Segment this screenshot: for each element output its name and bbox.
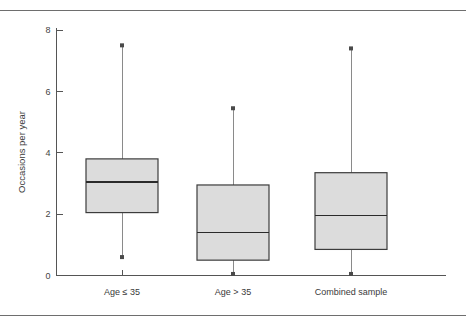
x-axis-category-label: Combined sample [315,287,388,297]
y-axis-ticks: 02468 [45,25,62,281]
y-axis-title: Occasions per year [16,111,27,193]
lower-whisker-cap [120,255,124,259]
box-iqr-rect [86,159,158,213]
y-tick-label: 6 [45,87,50,97]
box-plot-series [86,43,387,276]
upper-whisker-cap [120,43,124,47]
category-labels: Age ≤ 35Age > 35Combined sample [104,287,387,297]
y-axis: 02468 [45,25,62,281]
box-plot-chart: 02468 Occasions per year Age ≤ 35Age > 3… [0,0,466,323]
box-plot-item [197,106,269,276]
box-plot-item [315,46,387,276]
x-axis-category-label: Age > 35 [215,287,251,297]
x-axis [57,270,447,276]
y-tick-label: 2 [45,209,50,219]
box-iqr-rect [315,173,387,250]
upper-whisker-cap [349,46,353,50]
lower-whisker-cap [349,272,353,276]
x-axis-category-label: Age ≤ 35 [104,287,140,297]
box-plot-item [86,43,158,259]
lower-whisker-cap [231,272,235,276]
figure-container: 02468 Occasions per year Age ≤ 35Age > 3… [0,0,466,323]
y-tick-label: 4 [45,148,50,158]
y-tick-label: 0 [45,271,50,281]
x-axis-ticks [122,270,351,276]
box-iqr-rect [197,185,269,260]
y-tick-label: 8 [45,25,50,35]
upper-whisker-cap [231,106,235,110]
